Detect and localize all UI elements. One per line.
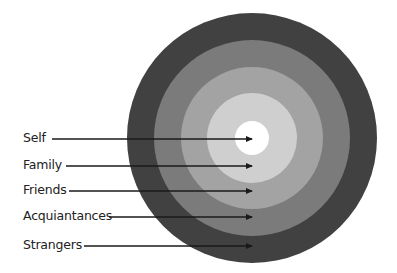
label-acquiantances: Acquiantances [23, 210, 112, 223]
label-friends: Friends [23, 184, 67, 197]
ring-self [235, 121, 269, 155]
concentric-circles-diagram [0, 0, 397, 273]
label-family: Family [23, 159, 62, 172]
label-strangers: Strangers [23, 239, 82, 252]
label-self: Self [23, 132, 46, 145]
